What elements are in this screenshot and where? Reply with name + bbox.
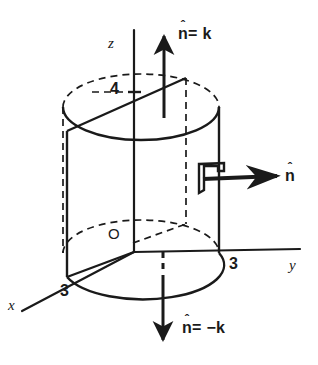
geometry-figure: z y x O 4 3 3 ˆn= k ˆn ˆn= −k [0, 0, 318, 365]
z-value-label: 4 [110, 81, 119, 97]
y-axis-line [134, 249, 300, 252]
y-value-label: 3 [229, 256, 238, 272]
bottom-chord-hidden-dashed [133, 224, 186, 243]
top-chord-solid [67, 78, 186, 131]
n-hat-symbol-bottom: ˆn [182, 320, 192, 336]
normal-bottom-equation: = −k [192, 319, 225, 336]
y-axis-label: y [289, 258, 296, 273]
normal-top-equation: = k [188, 25, 212, 42]
x-axis-line [22, 252, 134, 311]
bottom-ellipse-back-dashed [63, 220, 219, 253]
top-ellipse-back-dashed [63, 74, 219, 107]
n-hat-symbol-lateral: ˆn [285, 168, 295, 184]
x-value-label: 3 [60, 283, 69, 299]
z-axis-label: z [108, 36, 114, 51]
origin-label: O [108, 226, 120, 241]
normal-lateral-group [199, 163, 277, 193]
bottom-ellipse-front-solid [67, 253, 224, 299]
normal-bottom-label: ˆn= −k [182, 320, 225, 336]
figure-canvas [0, 0, 318, 365]
hidden-edges-group [63, 74, 219, 253]
normal-lateral-arrow [203, 176, 277, 179]
normal-top-label: ˆn= k [178, 26, 212, 42]
bottom-chord-solid [67, 252, 134, 277]
x-axis-label: x [8, 298, 15, 313]
n-hat-symbol-top: ˆn [178, 26, 188, 42]
normal-lateral-label: ˆn [285, 168, 295, 184]
